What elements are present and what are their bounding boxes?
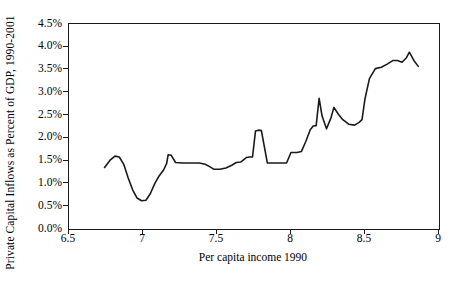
- series-polyline: [105, 52, 419, 201]
- y-tick-label: 3.0%: [24, 86, 62, 98]
- x-tick-label: 7.5: [196, 233, 236, 245]
- y-tick-label: 2.5%: [24, 109, 62, 121]
- x-tick-label: 6.5: [48, 233, 88, 245]
- data-line-series: [69, 24, 439, 229]
- x-tick-label: 8.5: [344, 233, 384, 245]
- y-tick-label: 4.5%: [24, 18, 62, 30]
- chart-figure: Private Capital Inflows as Percent of GD…: [0, 0, 458, 285]
- x-axis-title: Per capita income 1990: [68, 252, 438, 264]
- y-tick-label: 1.5%: [24, 154, 62, 166]
- y-tick-label: 0.5%: [24, 200, 62, 212]
- x-axis-tick-labels: 6.5 7 7.5 8 8.5 9: [0, 233, 458, 249]
- y-tick-label: 3.5%: [24, 63, 62, 75]
- x-tick-label: 9: [418, 233, 458, 245]
- x-tick-label: 7: [122, 233, 162, 245]
- y-tick-label: 1.0%: [24, 177, 62, 189]
- x-tick-label: 8: [270, 233, 310, 245]
- plot-area: [68, 23, 440, 230]
- y-tick-label: 4.0%: [24, 40, 62, 52]
- y-tick-label: 2.0%: [24, 131, 62, 143]
